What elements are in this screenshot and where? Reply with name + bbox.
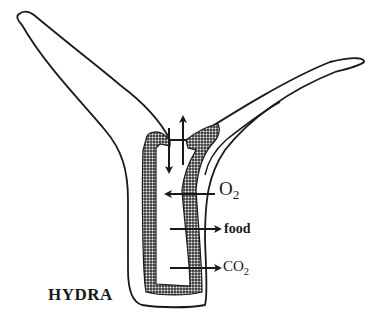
co2-label: CO2	[223, 258, 249, 277]
o2-label: O2	[219, 178, 239, 203]
food-label: food	[224, 221, 250, 237]
diagram-title: HYDRA	[48, 285, 113, 305]
hydra-diagram	[0, 0, 383, 334]
